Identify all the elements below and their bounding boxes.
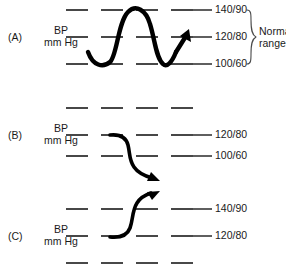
panel-b: (B) BP mm Hg	[0, 95, 286, 187]
panel-b-value-100-60: 100/60	[215, 150, 247, 161]
panel-a-range-annotation-line2: range	[259, 37, 286, 49]
panel-b-graphic	[0, 95, 286, 187]
panel-a-value-140-90: 140/90	[215, 4, 247, 15]
panel-b-value-120-80: 120/80	[215, 129, 247, 140]
panel-a-range-annotation: Norma range	[259, 25, 286, 49]
panel-c-value-120-80: 120/80	[215, 230, 247, 241]
panel-a: (A) BP mm Hg	[0, 0, 286, 95]
panel-a-value-120-80: 120/80	[215, 31, 247, 42]
blood-pressure-diagram: (A) BP mm Hg	[0, 0, 286, 279]
panel-c: (C) BP mm Hg	[0, 187, 286, 279]
panel-a-range-brace	[247, 10, 256, 64]
panel-c-rise-trace	[110, 193, 151, 237]
panel-a-range-annotation-line1: Norma	[259, 25, 286, 37]
panel-a-value-100-60: 100/60	[215, 58, 247, 69]
panel-c-value-140-90: 140/90	[215, 203, 247, 214]
